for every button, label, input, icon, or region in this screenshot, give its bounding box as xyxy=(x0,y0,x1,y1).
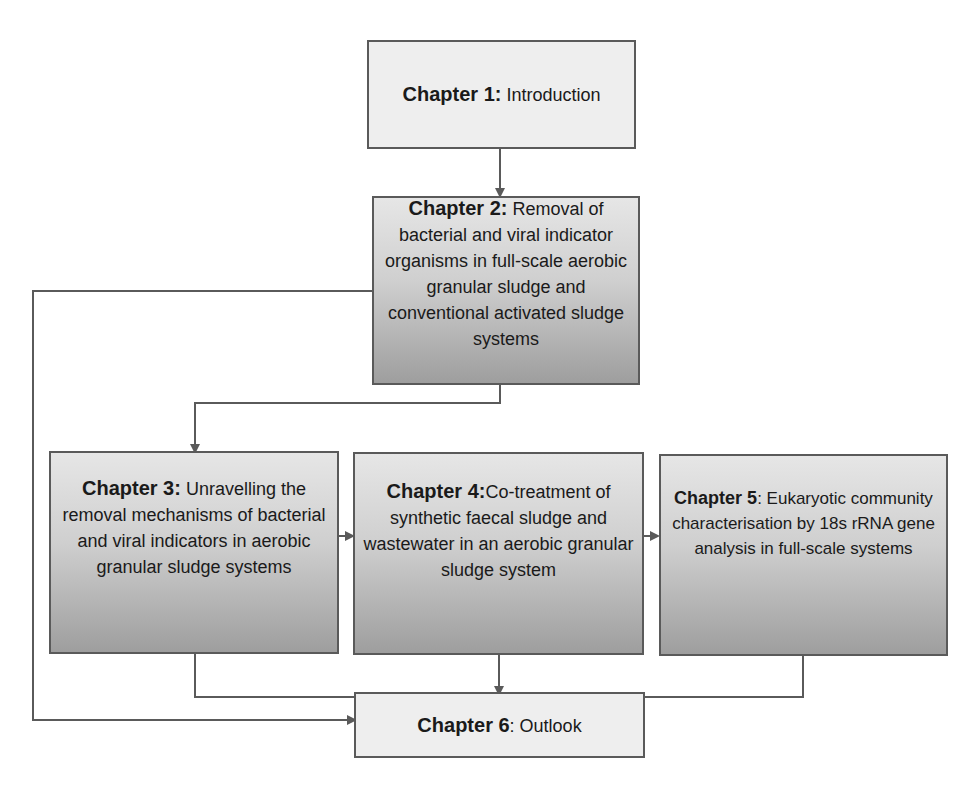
node-chapter-6: Chapter 6: Outlook xyxy=(354,692,645,758)
arrow-ch2-ch3 xyxy=(195,385,500,452)
node-chapter-1: Chapter 1: Introduction xyxy=(367,40,636,149)
node-text: Introduction xyxy=(501,85,600,105)
node-chapter-2: Chapter 2: Removal of bacterial and vira… xyxy=(372,196,640,385)
node-title: Chapter 4: xyxy=(387,480,486,502)
node-title: Chapter 6 xyxy=(417,714,509,736)
node-chapter-5: Chapter 5: Eukaryotic community characte… xyxy=(659,454,948,656)
node-title: Chapter 2: xyxy=(409,197,508,219)
node-title: Chapter 3: xyxy=(82,477,181,499)
node-chapter-3: Chapter 3: Unravelling the removal mecha… xyxy=(49,451,339,654)
node-chapter-4: Chapter 4:Co-treatment of synthetic faec… xyxy=(353,452,644,655)
node-title: Chapter 1: xyxy=(403,83,502,105)
node-text: Removal of bacterial and viral indicator… xyxy=(385,199,627,349)
node-text: : Outlook xyxy=(510,716,582,736)
node-title: Chapter 5 xyxy=(674,488,757,508)
